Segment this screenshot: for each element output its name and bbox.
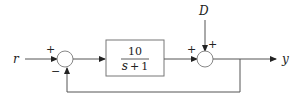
input-label-r: r: [13, 52, 20, 66]
output-label-y: y: [281, 52, 289, 66]
block-denominator: s+1: [122, 59, 148, 73]
sum2-plus-sign-top: +: [208, 38, 217, 51]
summing-junction-2: [197, 51, 213, 67]
sum1-minus-sign: −: [51, 65, 60, 78]
sum1-plus-sign: +: [46, 43, 55, 56]
block-diagram: r + − 10 s+1 + D + y: [0, 0, 299, 98]
feedback-arrowhead: [64, 67, 70, 74]
sum2-plus-sign-left: +: [187, 43, 196, 56]
block-numerator: 10: [128, 45, 142, 58]
disturbance-label-d: D: [198, 4, 209, 18]
